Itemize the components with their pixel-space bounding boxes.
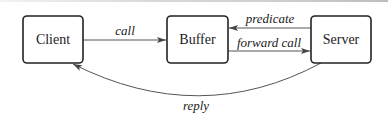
edge-forward-call: forward call (228, 35, 310, 51)
edge-predicate: predicate (229, 11, 311, 28)
node-label-buffer: Buffer (179, 32, 216, 47)
node-label-server: Server (323, 32, 360, 47)
diagram-canvas: call predicate forward call reply Client… (0, 0, 388, 121)
node-server: Server (311, 16, 371, 63)
edge-call: call (83, 23, 166, 40)
edge-label-reply: reply (183, 98, 209, 113)
node-client: Client (23, 16, 83, 63)
edge-label-predicate: predicate (245, 11, 295, 26)
edge-label-forward-call: forward call (237, 35, 302, 50)
edge-label-call: call (115, 23, 135, 38)
node-label-client: Client (36, 32, 70, 47)
node-buffer: Buffer (167, 16, 228, 63)
edge-reply: reply (73, 63, 321, 113)
